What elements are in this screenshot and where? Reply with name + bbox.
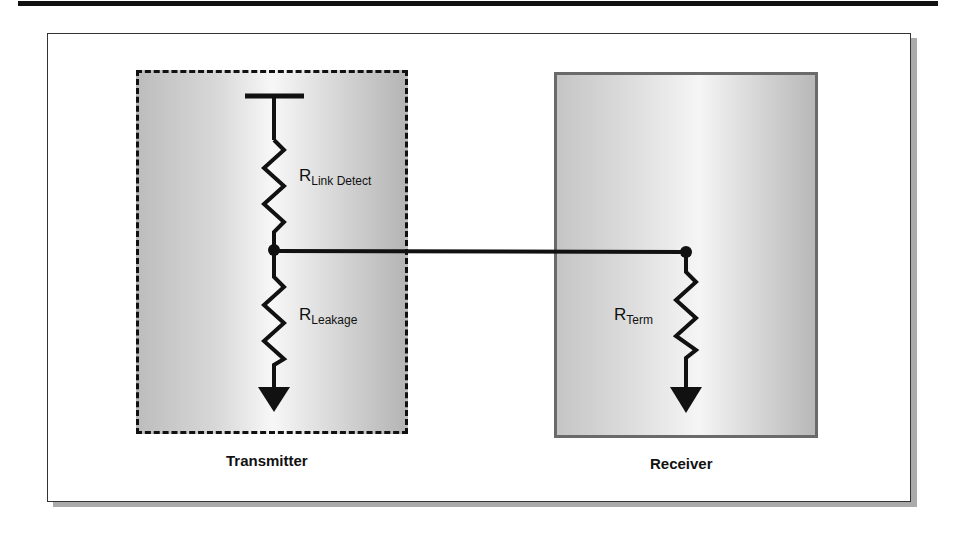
ground-arrow-tx-icon [258, 387, 290, 412]
resistor-subscript: Term [626, 313, 653, 327]
receiver-label: Receiver [650, 455, 713, 472]
resistor-term-icon [676, 252, 696, 388]
resistor-link-detect-icon [264, 140, 284, 250]
resistor-subscript: Link Detect [311, 174, 371, 188]
resistor-symbol: R [299, 305, 311, 324]
resistor-link-detect-label: RLink Detect [299, 166, 371, 188]
link-wire [274, 251, 686, 252]
resistor-symbol: R [614, 305, 626, 324]
resistor-leakage-icon [264, 250, 284, 388]
transmitter-label: Transmitter [226, 452, 308, 469]
supply-rail-icon [245, 96, 304, 140]
ground-arrow-rx-icon [670, 387, 702, 413]
resistor-term-label: RTerm [614, 305, 653, 327]
resistor-symbol: R [299, 166, 311, 185]
resistor-subscript: Leakage [311, 313, 357, 327]
circuit-wiring [0, 0, 957, 533]
resistor-leakage-label: RLeakage [299, 305, 357, 327]
